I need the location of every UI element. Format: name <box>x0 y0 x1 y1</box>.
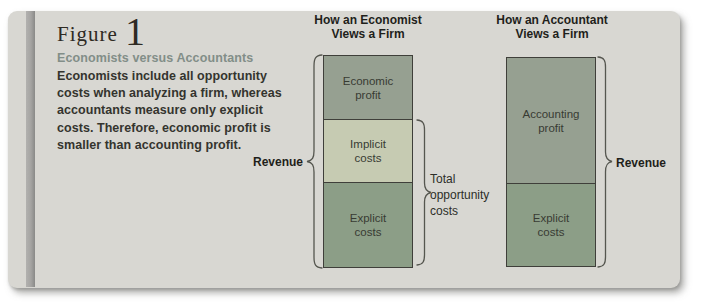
economic-profit-segment: Economic profit <box>324 56 412 119</box>
economist-chart-title: How an Economist Views a Firm <box>288 13 448 41</box>
total-opportunity-costs-label: Total opportunity costs <box>430 171 508 219</box>
accountant-chart-title-line2: Views a Firm <box>472 27 632 41</box>
figure-caption: Economists versus Accountants Economists… <box>57 50 289 155</box>
explicit-costs-segment-left: Explicit costs <box>324 182 412 267</box>
caption-body: Economists include all opportunity costs… <box>57 68 289 155</box>
economist-chart-title-line1: How an Economist <box>288 13 448 27</box>
figure-label: Figure <box>57 22 118 47</box>
figure-number: 1 <box>125 8 145 55</box>
accountant-chart-title-line1: How an Accountant <box>472 13 632 27</box>
revenue-label-right: Revenue <box>616 156 686 170</box>
economist-stacked-bar: Economic profit Implicit costs Explicit … <box>323 55 413 268</box>
economist-chart-title-line2: Views a Firm <box>288 27 448 41</box>
caption-heading: Economists versus Accountants <box>57 50 289 68</box>
accountant-chart-title: How an Accountant Views a Firm <box>472 13 632 41</box>
accountant-stacked-bar: Accounting profit Explicit costs <box>506 57 596 267</box>
implicit-costs-segment: Implicit costs <box>324 119 412 182</box>
page: { "figure": { "label": "Figure", "number… <box>0 0 714 303</box>
revenue-label-left: Revenue <box>228 155 303 169</box>
spine-bar <box>26 11 35 287</box>
accounting-profit-segment: Accounting profit <box>507 58 595 183</box>
explicit-costs-segment-right: Explicit costs <box>507 183 595 266</box>
